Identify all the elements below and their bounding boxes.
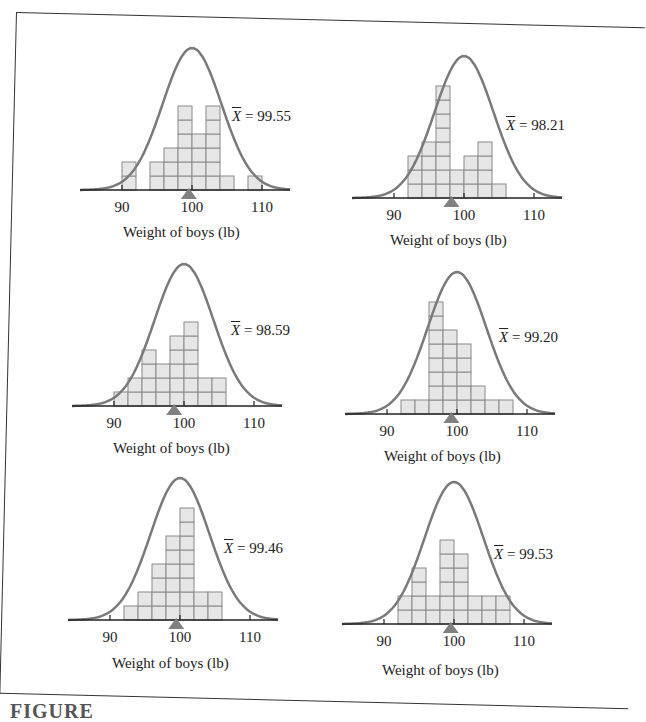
histogram-cell	[436, 184, 450, 198]
histogram-svg: 90100110	[352, 50, 562, 228]
histogram-panel-2: 90100110	[352, 50, 562, 228]
histogram-cell	[454, 554, 468, 568]
histogram-panel-6: 90100110	[342, 478, 552, 654]
histogram-cell	[436, 128, 450, 142]
histogram-cell	[422, 156, 436, 170]
x-tick-label: 100	[446, 423, 469, 439]
histogram-panel-3: 90100110	[72, 258, 282, 436]
histogram-cell	[468, 596, 482, 610]
histogram-svg: 90100110	[345, 262, 555, 444]
histogram-cell	[454, 610, 468, 624]
histogram-cell	[166, 550, 180, 564]
histogram-svg: 90100110	[68, 474, 278, 650]
x-axis-label-1: Weight of boys (lb)	[123, 224, 240, 241]
histogram-cell	[485, 400, 499, 414]
histogram-cell	[468, 610, 482, 624]
mean-value: = 99.55	[245, 108, 291, 124]
histogram-cell	[436, 114, 450, 128]
histogram-cell	[142, 364, 156, 378]
histogram-cell	[440, 596, 454, 610]
histogram-cell	[178, 148, 192, 162]
histogram-cell	[440, 582, 454, 596]
histogram-cell	[450, 170, 464, 184]
histogram-cell	[457, 400, 471, 414]
histogram-cell	[429, 372, 443, 386]
histogram-cell	[122, 176, 136, 190]
histogram-cell	[164, 162, 178, 176]
x-tick-label: 90	[115, 199, 130, 215]
histogram-cell	[152, 592, 166, 606]
histogram-cell	[471, 386, 485, 400]
histogram-cell	[166, 606, 180, 620]
mean-label-3: X = 98.59	[231, 322, 290, 339]
histogram-cell	[478, 156, 492, 170]
x-tick-label: 100	[173, 415, 196, 431]
x-axis-label-2: Weight of boys (lb)	[390, 232, 507, 249]
mean-label-2: X = 98.21	[506, 117, 565, 134]
histogram-cell	[492, 184, 506, 198]
histogram-cell	[443, 400, 457, 414]
histogram-cell	[496, 610, 510, 624]
histogram-cell	[206, 134, 220, 148]
histogram-cell	[180, 508, 194, 522]
histogram-cell	[156, 392, 170, 406]
histogram-cell	[450, 184, 464, 198]
histogram-cell	[415, 400, 429, 414]
histogram-cell	[482, 596, 496, 610]
histogram-cell	[178, 134, 192, 148]
x-tick-label: 110	[251, 199, 273, 215]
histogram-cell	[128, 392, 142, 406]
histogram-cell	[436, 170, 450, 184]
histogram-cell	[150, 176, 164, 190]
histogram-cell	[156, 378, 170, 392]
histogram-cell	[464, 156, 478, 170]
histogram-cell	[206, 162, 220, 176]
histogram-cell	[426, 610, 440, 624]
histogram-cell	[499, 400, 513, 414]
histogram-cell	[454, 596, 468, 610]
histogram-cell	[464, 184, 478, 198]
histogram-cell	[178, 162, 192, 176]
histogram-cell	[184, 322, 198, 336]
histogram-cell	[194, 606, 208, 620]
histogram-cell	[192, 162, 206, 176]
x-tick-label: 90	[377, 633, 392, 649]
histogram-cell	[184, 336, 198, 350]
histogram-cell	[164, 148, 178, 162]
x-tick-label: 110	[243, 415, 265, 431]
histogram-cell	[170, 364, 184, 378]
histogram-cell	[471, 400, 485, 414]
xbar-symbol: X	[231, 322, 240, 338]
histogram-cell	[429, 358, 443, 372]
histogram-cell	[180, 606, 194, 620]
x-tick-label: 100	[453, 207, 476, 223]
x-tick-label: 110	[513, 633, 535, 649]
histogram-cell	[166, 536, 180, 550]
histogram-cell	[192, 148, 206, 162]
histogram-panel-1: 90100110	[80, 40, 290, 220]
histogram-svg: 90100110	[80, 40, 290, 220]
histogram-cell	[206, 148, 220, 162]
histogram-cell	[457, 386, 471, 400]
x-axis-label-6: Weight of boys (lb)	[382, 662, 499, 679]
histogram-cell	[142, 392, 156, 406]
histogram-cell	[478, 184, 492, 198]
mean-value: = 98.21	[519, 117, 565, 133]
histogram-cell	[206, 106, 220, 120]
histogram-cell	[426, 596, 440, 610]
histogram-cell	[192, 134, 206, 148]
xbar-symbol: X	[506, 117, 515, 133]
x-tick-label: 100	[443, 633, 466, 649]
histogram-cell	[198, 392, 212, 406]
histogram-cell	[178, 120, 192, 134]
histogram-cell	[212, 378, 226, 392]
histogram-cell	[457, 344, 471, 358]
histogram-cell	[412, 596, 426, 610]
histogram-cell	[180, 592, 194, 606]
histogram-cell	[184, 392, 198, 406]
figure-caption: FIGURE	[10, 700, 94, 722]
histogram-cell	[440, 610, 454, 624]
histogram-cell	[164, 176, 178, 190]
mean-label-4: X = 99.20	[499, 329, 558, 346]
histogram-cell	[443, 330, 457, 344]
